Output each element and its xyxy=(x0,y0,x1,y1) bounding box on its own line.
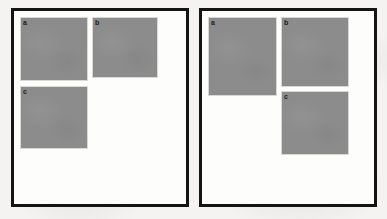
figure-panel-right-content: abc xyxy=(202,11,374,204)
figure-panel-left: abc xyxy=(11,8,189,207)
figure-subpanel-c: c xyxy=(20,86,88,149)
figure-subpanel-label: a xyxy=(211,19,215,27)
figure-subpanel-label: a xyxy=(23,19,27,27)
figure-panel-left-content: abc xyxy=(14,11,186,204)
figure-subpanel-a: a xyxy=(208,17,277,96)
figure-subpanel-label: b xyxy=(284,19,288,27)
figure-subpanel-a: a xyxy=(20,17,88,81)
figure-subpanel-label: c xyxy=(23,88,27,96)
figure-subpanel-b: b xyxy=(92,17,158,78)
figure-panel-right: abc xyxy=(199,8,377,207)
figure-subpanel-c: c xyxy=(281,91,349,155)
figure-subpanel-b: b xyxy=(281,17,349,87)
figure-subpanel-label: c xyxy=(284,93,288,101)
figure-subpanel-label: b xyxy=(95,19,99,27)
